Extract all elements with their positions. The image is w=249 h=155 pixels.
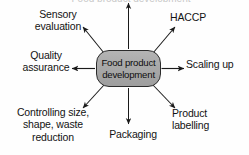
central-node-food-product-development: Food product development	[96, 50, 161, 87]
spoke-label-quality-assurance: Quality assurance	[6, 49, 86, 74]
spoke-label-sensory-evaluation: Sensory evaluation	[16, 8, 100, 33]
food-product-development-diagram: Food product development Food product de…	[0, 0, 249, 155]
spoke-arrow-down-right	[153, 85, 175, 108]
spoke-arrow-down-left	[83, 85, 104, 108]
spoke-arrow-up-right	[153, 27, 175, 53]
spoke-label-controlling-size-shape-waste-reduction: Controlling size, shape, waste reduction	[2, 106, 104, 143]
spoke-label-product-labelling: Product labelling	[172, 107, 242, 132]
top-cutoff-title-text: Food product development	[66, 0, 196, 2]
central-node-line-2: development	[102, 69, 155, 80]
central-node-line-1: Food product	[101, 57, 155, 68]
spoke-label-packaging: Packaging	[100, 128, 166, 140]
spoke-label-scaling-up: Scaling up	[186, 58, 248, 70]
spoke-label-haccp: HACCP	[170, 11, 242, 23]
